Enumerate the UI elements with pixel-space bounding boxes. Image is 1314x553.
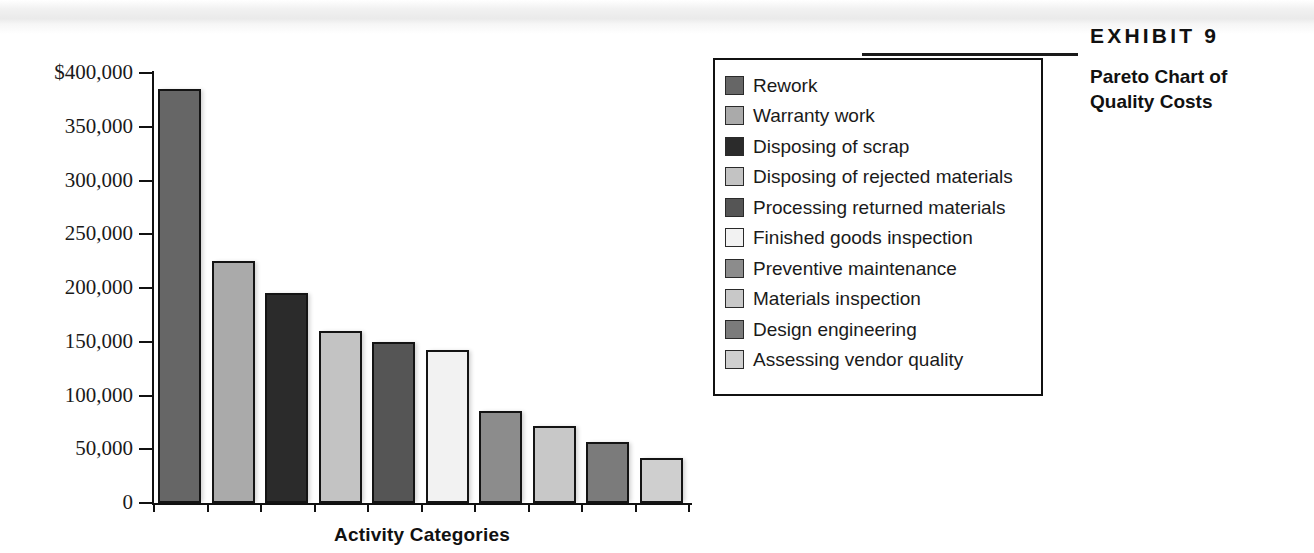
x-axis-title: Activity Categories — [152, 524, 692, 546]
legend-item-label: Assessing vendor quality — [753, 350, 963, 369]
bar — [265, 293, 308, 503]
bar-series — [0, 0, 700, 553]
legend-item-label: Materials inspection — [753, 289, 921, 308]
legend-item: Materials inspection — [725, 284, 1041, 315]
legend-item: Disposing of rejected materials — [725, 162, 1041, 193]
exhibit-title: Pareto Chart of Quality Costs — [1090, 64, 1260, 114]
bar — [372, 342, 415, 503]
legend-swatch-icon — [725, 106, 744, 125]
exhibit-rule — [862, 53, 1078, 56]
legend-item: Finished goods inspection — [725, 223, 1041, 254]
legend-swatch-icon — [725, 137, 744, 156]
bar — [212, 261, 255, 503]
legend-swatch-icon — [725, 198, 744, 217]
bar — [640, 458, 683, 503]
legend-item-label: Processing returned materials — [753, 198, 1005, 217]
legend-swatch-icon — [725, 76, 744, 95]
legend-item: Design engineering — [725, 314, 1041, 345]
pareto-chart: $400,000350,000300,000250,000200,000150,… — [0, 0, 700, 553]
legend-item-label: Preventive maintenance — [753, 259, 957, 278]
legend-item-label: Rework — [753, 76, 817, 95]
legend-swatch-icon — [725, 289, 744, 308]
bar — [158, 89, 201, 503]
legend-swatch-icon — [725, 350, 744, 369]
chart-legend: ReworkWarranty workDisposing of scrapDis… — [713, 58, 1043, 396]
legend-swatch-icon — [725, 259, 744, 278]
legend-item-label: Finished goods inspection — [753, 228, 973, 247]
legend-item-label: Design engineering — [753, 320, 917, 339]
exhibit-panel: EXHIBIT 9 Pareto Chart of Quality Costs — [1090, 24, 1314, 114]
legend-item: Processing returned materials — [725, 192, 1041, 223]
legend-item: Assessing vendor quality — [725, 345, 1041, 376]
exhibit-title-line-1: Pareto Chart of — [1090, 64, 1260, 89]
exhibit-page: $400,000350,000300,000250,000200,000150,… — [0, 0, 1314, 553]
legend-item-label: Disposing of scrap — [753, 137, 909, 156]
legend-item: Warranty work — [725, 101, 1041, 132]
legend-item-label: Warranty work — [753, 106, 875, 125]
bar — [533, 426, 576, 503]
legend-item-label: Disposing of rejected materials — [753, 167, 1013, 186]
legend-swatch-icon — [725, 320, 744, 339]
legend-swatch-icon — [725, 228, 744, 247]
legend-item: Preventive maintenance — [725, 253, 1041, 284]
bar — [319, 331, 362, 503]
legend-item: Disposing of scrap — [725, 131, 1041, 162]
legend-swatch-icon — [725, 167, 744, 186]
exhibit-title-line-2: Quality Costs — [1090, 89, 1260, 114]
exhibit-number: EXHIBIT 9 — [1090, 24, 1314, 48]
bar — [479, 411, 522, 503]
bar — [426, 350, 469, 503]
legend-item: Rework — [725, 70, 1041, 101]
bar — [586, 442, 629, 503]
